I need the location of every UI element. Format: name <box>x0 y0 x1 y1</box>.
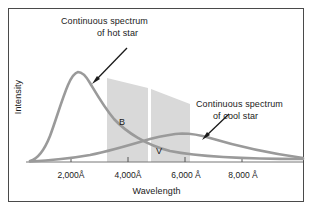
band-v-label: V <box>156 146 162 156</box>
x-tick-label-8000: 8,000 Å <box>228 170 257 180</box>
hot-star-annotation-line1: Continuous spectrum <box>61 16 148 26</box>
x-tick-label-4000: 4,000Å <box>115 170 142 180</box>
x-tick-label-6000: 6,000 Å <box>171 170 200 180</box>
cool-star-annotation-line1: Continuous spectrum <box>196 99 283 109</box>
cool-star-annotation-line2: of cool star <box>213 111 258 121</box>
hot-star-annotation-line2: of hot star <box>97 28 138 38</box>
figure-container: Intensity Wavelength 2,000Å 4,000Å 6,000… <box>0 0 313 211</box>
x-tick-label-2000: 2,000Å <box>58 170 85 180</box>
y-axis-label: Intensity <box>13 67 23 127</box>
band-b-label: B <box>119 117 125 127</box>
x-axis-label: Wavelength <box>0 186 313 196</box>
